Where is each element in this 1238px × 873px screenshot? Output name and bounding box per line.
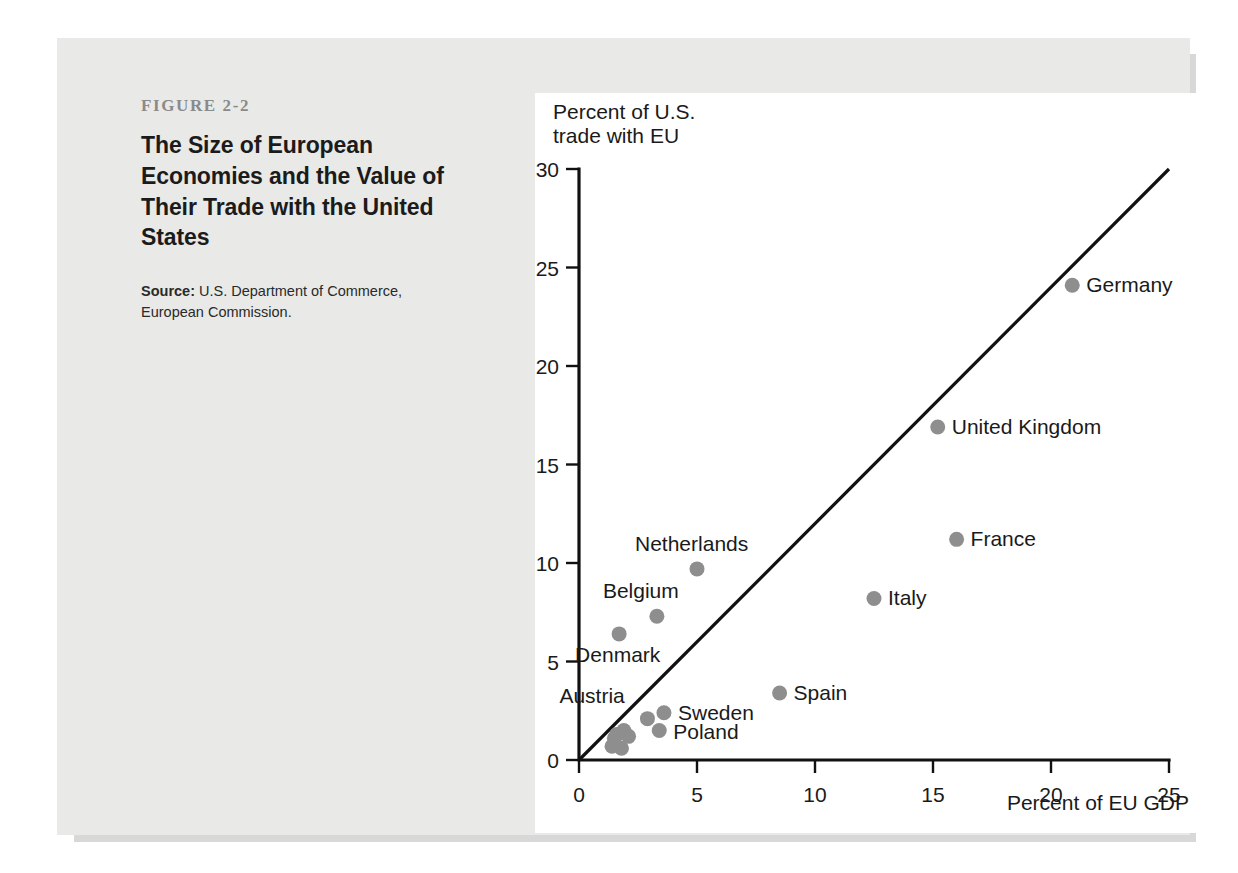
data-point-poland: [652, 723, 667, 738]
y-tick-label: 15: [536, 454, 559, 477]
data-point-label-denmark: Denmark: [575, 643, 661, 666]
reference-line-group: [579, 169, 1169, 760]
y-axis-title-line-2: trade with EU: [553, 124, 679, 147]
data-point-united-kingdom: [930, 420, 945, 435]
x-axis-title: Percent of EU GDP: [1007, 791, 1189, 814]
x-tick-label: 15: [921, 783, 944, 806]
figure-source: Source: U.S. Department of Commerce, Eur…: [141, 281, 461, 322]
figure-number: FIGURE 2-2: [141, 96, 501, 116]
data-point-sweden: [656, 705, 671, 720]
data-point-label-belgium: Belgium: [603, 579, 679, 602]
chart-panel: Percent of U.S. trade with EU 0510152025…: [535, 93, 1207, 833]
y-axis-title-line-1: Percent of U.S.: [553, 100, 695, 123]
data-point-labels-group: GermanyUnited KingdomFranceItalyNetherla…: [559, 273, 1173, 743]
scatter-plot: Percent of U.S. trade with EU 0510152025…: [535, 93, 1207, 833]
data-point-label-poland: Poland: [673, 720, 738, 743]
figure-root: FIGURE 2-2 The Size of European Economie…: [0, 0, 1238, 873]
data-point-label-austria: Austria: [559, 684, 625, 707]
source-label: Source:: [141, 283, 195, 299]
data-point-label-italy: Italy: [888, 586, 927, 609]
data-point: [614, 741, 629, 756]
data-point-france: [949, 532, 964, 547]
y-tick-label: 10: [536, 552, 559, 575]
data-point-spain: [772, 686, 787, 701]
data-point-netherlands: [690, 561, 705, 576]
y-tick-label: 30: [536, 158, 559, 181]
data-point-label-netherlands: Netherlands: [635, 532, 748, 555]
data-point-germany: [1065, 278, 1080, 293]
y-tick-label: 25: [536, 257, 559, 280]
data-point-denmark: [612, 626, 627, 641]
data-point-label-united-kingdom: United Kingdom: [952, 415, 1101, 438]
y-tick-label: 5: [547, 651, 559, 674]
data-point-austria: [640, 711, 655, 726]
data-point-label-germany: Germany: [1086, 273, 1173, 296]
data-point-label-france: France: [971, 527, 1036, 550]
figure-title: The Size of European Economies and the V…: [141, 130, 456, 253]
y-tick-label: 20: [536, 355, 559, 378]
forty-five-degree-line: [579, 169, 1169, 760]
x-tick-label: 5: [691, 783, 703, 806]
data-point-label-spain: Spain: [794, 681, 848, 704]
data-point-belgium: [649, 609, 664, 624]
x-tick-label: 10: [803, 783, 826, 806]
x-tick-label: 0: [573, 783, 585, 806]
data-point-italy: [867, 591, 882, 606]
figure-caption-block: FIGURE 2-2 The Size of European Economie…: [141, 96, 501, 322]
figure-gray-panel: FIGURE 2-2 The Size of European Economie…: [57, 38, 1190, 835]
y-tick-label: 0: [547, 749, 559, 772]
